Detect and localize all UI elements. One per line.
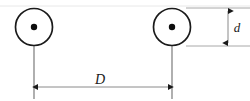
left-wheel-hub-dot xyxy=(31,24,37,30)
wheel-diameter-label: d xyxy=(234,20,241,35)
center-distance-label: D xyxy=(94,72,105,87)
right-wheel-hub-dot xyxy=(169,24,175,30)
wheel-dimension-diagram: D d xyxy=(0,0,250,101)
diagram-canvas: D d xyxy=(0,0,250,101)
